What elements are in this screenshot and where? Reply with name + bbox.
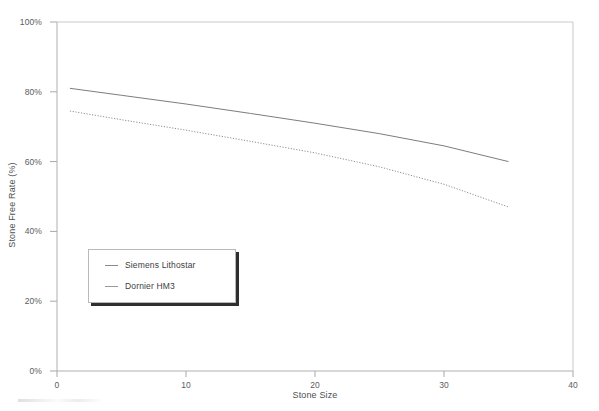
- y-tick-label-5: 100%: [10, 17, 42, 27]
- legend-label-0: Siemens Lithostar: [125, 260, 196, 270]
- chart-legend: Siemens Lithostar Dornier HM3: [88, 249, 236, 303]
- y-tick-label-1: 20%: [16, 296, 42, 306]
- legend-label-1: Dornier HM3: [125, 281, 175, 291]
- y-tick-label-2: 40%: [16, 226, 42, 236]
- scan-artifact: [18, 399, 104, 402]
- y-tick-label-3: 60%: [16, 157, 42, 167]
- legend-item-siemens-lithostar: Siemens Lithostar: [105, 260, 196, 270]
- y-axis-title: Stone Free Rate (%): [7, 162, 17, 247]
- y-tick-marks: [50, 22, 57, 371]
- x-tick-marks: [57, 371, 573, 377]
- legend-swatch-solid-line-icon: [105, 265, 118, 266]
- plot-area-svg: [0, 0, 599, 411]
- legend-item-dornier-hm3: Dornier HM3: [105, 281, 175, 291]
- legend-swatch-dotted-line-icon: [105, 286, 118, 287]
- y-tick-label-0: 0%: [16, 366, 42, 376]
- x-tick-label-3: 30: [439, 380, 449, 390]
- x-axis-title: Stone Size: [292, 390, 337, 400]
- y-tick-label-4: 80%: [16, 87, 42, 97]
- x-tick-label-0: 0: [55, 380, 60, 390]
- x-tick-label-2: 20: [310, 380, 320, 390]
- x-tick-label-4: 40: [568, 380, 578, 390]
- series-line-siemens-lithostar: [70, 88, 509, 161]
- x-tick-label-1: 10: [181, 380, 191, 390]
- series-line-dornier-hm3: [70, 111, 509, 207]
- stone-free-rate-chart: 0% 20% 40% 60% 80% 100% 0 10 20 30 40 St…: [0, 0, 599, 411]
